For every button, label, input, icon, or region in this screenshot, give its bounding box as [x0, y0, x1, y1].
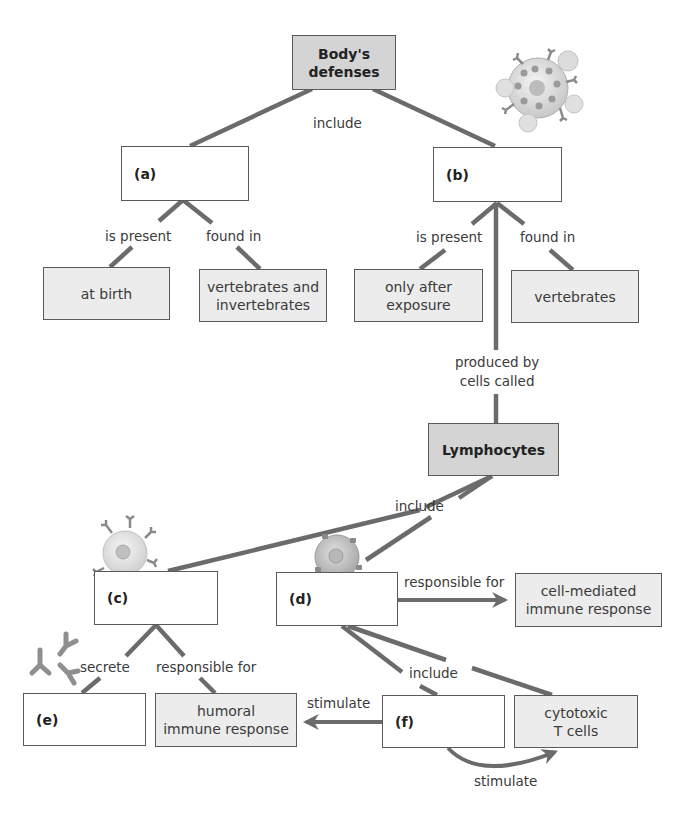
root-node-line2: defenses: [308, 63, 379, 81]
node-vertebrates-and-invertebrates: vertebrates and invertebrates: [199, 269, 327, 322]
node-a-label: (a): [134, 165, 156, 183]
root-node-body-defenses: Body's defenses: [292, 35, 396, 90]
link-label-f-stimulate-bottom: stimulate: [474, 773, 537, 790]
link-label-c-responsible-for: responsible for: [156, 659, 256, 676]
node-vert-invert-line1: vertebrates and: [207, 278, 319, 296]
node-d-label: (d): [289, 590, 312, 608]
node-c: (c): [94, 571, 218, 625]
link-label-produced-by-line1: produced by: [455, 353, 539, 372]
link-label-b-found-in: found in: [520, 229, 575, 246]
node-at-birth: at birth: [43, 267, 170, 320]
node-lymphocytes: Lymphocytes: [428, 423, 559, 476]
node-lymphocytes-label: Lymphocytes: [442, 441, 545, 459]
link-label-c-secrete: secrete: [80, 659, 130, 676]
link-label-include-lymphocytes: include: [395, 498, 444, 515]
node-cytotoxic-line2: T cells: [554, 722, 598, 740]
link-label-produced-by: produced by cells called: [455, 353, 539, 391]
link-label-a-is-present: is present: [105, 228, 171, 245]
node-f: (f): [382, 695, 505, 748]
node-humoral-immune-response: humoral immune response: [155, 693, 297, 747]
root-node-line1: Body's: [318, 45, 370, 63]
node-b-label: (b): [446, 166, 469, 184]
link-label-a-found-in: found in: [206, 228, 261, 245]
node-at-birth-label: at birth: [81, 285, 132, 303]
node-c-label: (c): [107, 589, 128, 607]
node-e: (e): [23, 693, 146, 746]
link-label-d-responsible-for: responsible for: [404, 574, 504, 591]
link-label-include-top: include: [313, 115, 362, 132]
node-d: (d): [276, 572, 398, 626]
link-label-f-stimulate-left: stimulate: [307, 695, 370, 712]
node-humoral-line1: humoral: [197, 702, 255, 720]
link-label-include-d: include: [409, 665, 458, 682]
antibody-icon: [32, 634, 78, 683]
node-a: (a): [121, 146, 249, 201]
link-label-b-is-present: is present: [416, 229, 482, 246]
memory-cell-icon: [496, 49, 583, 132]
node-only-after-exposure: only after exposure: [354, 269, 483, 322]
node-e-label: (e): [36, 711, 58, 729]
node-vertebrates-label: vertebrates: [534, 288, 615, 306]
node-humoral-line2: immune response: [163, 720, 289, 738]
node-b: (b): [433, 147, 562, 202]
node-vertebrates: vertebrates: [511, 270, 639, 323]
node-f-label: (f): [395, 713, 414, 731]
node-cell-mediated-line1: cell-mediated: [541, 582, 637, 600]
node-cell-mediated-line2: immune response: [526, 600, 652, 618]
node-only-after-line1: only after: [385, 278, 452, 296]
node-cell-mediated-immune-response: cell-mediated immune response: [515, 573, 662, 627]
node-cytotoxic-t-cells: cytotoxic T cells: [514, 695, 638, 748]
node-only-after-line2: exposure: [386, 296, 450, 314]
node-cytotoxic-line1: cytotoxic: [544, 704, 608, 722]
link-label-produced-by-line2: cells called: [455, 372, 539, 391]
node-vert-invert-line2: invertebrates: [216, 296, 310, 314]
